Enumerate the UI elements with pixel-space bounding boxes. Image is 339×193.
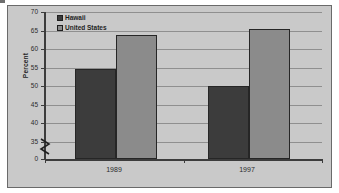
- y-tick-label-0: 0: [12, 155, 38, 162]
- bar-united-states-1989: [116, 35, 157, 159]
- legend-label-hawaii: Hawaii: [65, 14, 86, 22]
- y-tick-label-40: 40: [12, 119, 38, 126]
- legend-item-hawaii: Hawaii: [57, 13, 107, 22]
- x-tick-mark-end: [322, 159, 323, 163]
- y-tick-mark-70: [41, 12, 45, 13]
- y-tick-mark-45: [41, 105, 45, 106]
- y-tick-label-70: 70: [12, 8, 38, 15]
- axis-break-icon: [38, 136, 52, 156]
- bar-hawaii-1997: [208, 86, 249, 159]
- plot-area: [45, 12, 322, 159]
- legend-swatch-icon-hawaii: [57, 15, 63, 21]
- x-tick-label-1997: 1997: [219, 166, 275, 173]
- chart-figure: 70 65 60 55 50 45 40 35 0 1989 1997 Perc…: [0, 0, 339, 193]
- legend-label-united-states: United States: [65, 24, 107, 32]
- y-axis-title: Percent: [22, 39, 29, 93]
- y-tick-mark-55: [41, 68, 45, 69]
- legend-swatch-icon-united-states: [57, 25, 63, 31]
- chart-legend: Hawaii United States: [56, 12, 109, 34]
- crop-edge-artifact: [0, 0, 5, 3]
- y-tick-mark-65: [41, 31, 45, 32]
- bar-hawaii-1989: [75, 69, 116, 159]
- y-tick-label-45: 45: [12, 101, 38, 108]
- y-tick-label-65: 65: [12, 27, 38, 34]
- y-tick-mark-60: [41, 49, 45, 50]
- bar-united-states-1997: [249, 29, 290, 159]
- y-tick-label-35: 35: [12, 138, 38, 145]
- y-tick-mark-50: [41, 86, 45, 87]
- x-tick-label-1989: 1989: [86, 166, 142, 173]
- y-tick-mark-40: [41, 123, 45, 124]
- x-tick-mark-start: [45, 159, 46, 163]
- legend-item-united-states: United States: [57, 23, 107, 32]
- x-tick-mark-middle: [184, 159, 185, 163]
